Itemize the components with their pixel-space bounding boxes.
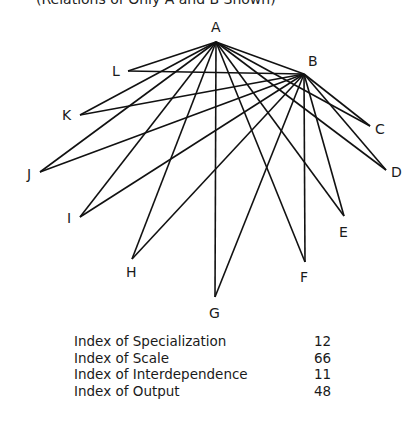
node-label-k: K (62, 107, 72, 123)
edge-b-f (304, 74, 305, 262)
index-label: Index of Specialization (74, 333, 226, 350)
index-table: Index of Specialization 12 Index of Scal… (74, 333, 354, 399)
index-label: Index of Output (74, 383, 180, 400)
node-label-l: L (112, 63, 120, 79)
edge-b-g (215, 74, 304, 297)
table-row: Index of Specialization 12 (74, 333, 354, 350)
table-row: Index of Scale 66 (74, 350, 354, 367)
edge-a-h (132, 42, 216, 259)
node-label-f: F (300, 269, 308, 285)
edge-a-b (216, 42, 304, 74)
node-label-c: C (375, 121, 385, 137)
index-value: 66 (314, 350, 354, 367)
edge-a-e (216, 42, 344, 216)
table-row: Index of Interdependence 11 (74, 366, 354, 383)
node-label-i: I (67, 210, 71, 226)
index-label: Index of Scale (74, 350, 169, 367)
node-label-d: D (391, 164, 402, 180)
edge-b-d (304, 74, 386, 170)
node-label-e: E (339, 224, 348, 240)
index-label: Index of Interdependence (74, 366, 248, 383)
table-row: Index of Output 48 (74, 383, 354, 400)
edges (40, 42, 386, 297)
edge-a-k (80, 42, 216, 115)
edge-b-e (304, 74, 344, 216)
node-label-b: B (308, 53, 318, 69)
index-value: 48 (314, 383, 354, 400)
node-label-a: A (211, 19, 221, 35)
edge-a-l (128, 42, 216, 71)
node-label-h: H (126, 264, 137, 280)
index-value: 11 (314, 366, 354, 383)
node-label-j: J (26, 166, 31, 182)
edge-b-c (304, 74, 370, 126)
network-diagram: ABCDEFGHIJKL (0, 0, 404, 330)
index-value: 12 (314, 333, 354, 350)
node-label-g: G (209, 305, 220, 321)
edge-a-c (216, 42, 370, 126)
edge-b-k (80, 74, 304, 115)
